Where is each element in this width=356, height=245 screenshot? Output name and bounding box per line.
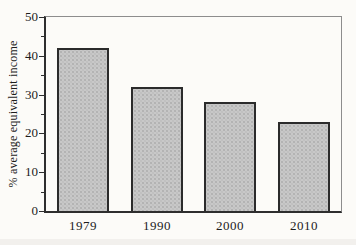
y-tick-minor-45 [41, 36, 44, 37]
bar-1990 [131, 87, 183, 211]
y-tick-label-30: 30 [14, 88, 38, 102]
y-tick-label-50: 50 [14, 10, 38, 24]
y-tick-minor-5 [41, 192, 44, 193]
y-tick-minor-25 [41, 114, 44, 115]
y-tick-label-0: 0 [14, 204, 38, 218]
x-label-1979: 1979 [53, 218, 113, 233]
y-tick-major-40 [39, 56, 44, 57]
y-tick-minor-35 [41, 75, 44, 76]
x-label-2010: 2010 [274, 218, 334, 233]
y-tick-minor-15 [41, 153, 44, 154]
bar-1979 [57, 48, 109, 211]
x-label-1990: 1990 [127, 218, 187, 233]
y-tick-label-10: 10 [14, 165, 38, 179]
scan-artifact [0, 239, 356, 245]
y-tick-label-40: 40 [14, 49, 38, 63]
y-tick-major-50 [39, 17, 44, 18]
bar-chart-figure: % average equivalent income 01020304050 … [0, 0, 356, 245]
x-label-2000: 2000 [200, 218, 260, 233]
y-tick-major-20 [39, 133, 44, 134]
bar-2010 [278, 122, 330, 211]
y-tick-major-10 [39, 172, 44, 173]
y-tick-major-30 [39, 95, 44, 96]
y-tick-major-0 [39, 211, 44, 212]
bar-2000 [204, 102, 256, 211]
y-tick-label-20: 20 [14, 126, 38, 140]
